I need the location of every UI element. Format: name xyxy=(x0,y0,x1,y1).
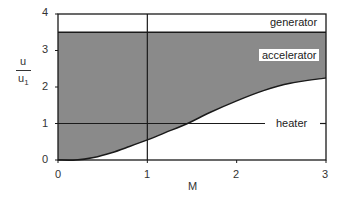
x-axis-label: M xyxy=(188,180,197,192)
heater-label: heater xyxy=(276,117,307,129)
y-axis-label-numerator: u xyxy=(20,55,26,67)
y-axis-label-subscript: 1 xyxy=(24,78,28,87)
accelerator-label: accelerator xyxy=(259,49,319,61)
y-tick-4: 4 xyxy=(42,6,48,18)
y-axis-label-denominator: u1 xyxy=(18,72,29,87)
y-axis-fraction-bar xyxy=(16,70,31,71)
x-tick-0: 0 xyxy=(55,168,61,180)
x-tick-2: 2 xyxy=(233,168,239,180)
x-tick-3: 3 xyxy=(322,168,328,180)
y-tick-0: 0 xyxy=(42,153,48,165)
x-tick-1: 1 xyxy=(144,168,150,180)
y-tick-3: 3 xyxy=(42,43,48,55)
y-tick-2: 2 xyxy=(42,80,48,92)
generator-label: generator xyxy=(270,16,317,28)
y-tick-1: 1 xyxy=(42,117,48,129)
